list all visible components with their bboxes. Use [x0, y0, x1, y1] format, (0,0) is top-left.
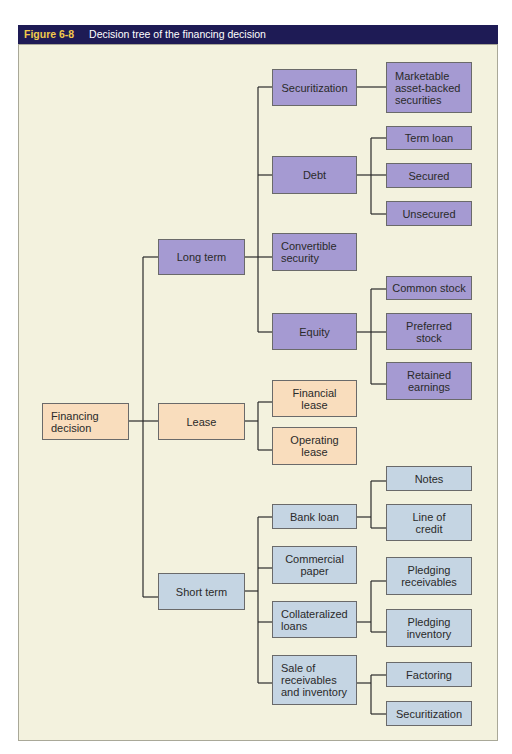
- node-preferred-stock: Preferred stock: [386, 313, 472, 350]
- node-common-stock: Common stock: [386, 276, 472, 300]
- node-unsecured: Unsecured: [386, 201, 472, 226]
- node-debt: Debt: [272, 156, 357, 194]
- node-marketable-abs: Marketable asset-backed securities: [386, 62, 472, 113]
- node-pledging-receivables: Pledging receivables: [386, 557, 472, 595]
- node-commercial-paper: Commercial paper: [272, 546, 357, 584]
- node-securitization: Securitization: [272, 69, 357, 106]
- node-convertible-security: Convertible security: [272, 233, 357, 271]
- node-bank-loan: Bank loan: [272, 504, 357, 529]
- node-collateralized-loans: Collateralized loans: [272, 601, 357, 638]
- node-notes: Notes: [386, 466, 472, 491]
- node-securitization-short: Securitization: [386, 701, 472, 726]
- node-factoring: Factoring: [386, 662, 472, 687]
- node-short-term: Short term: [158, 573, 245, 610]
- node-equity: Equity: [272, 313, 357, 350]
- node-line-of-credit: Line of credit: [386, 504, 472, 541]
- node-financial-lease: Financial lease: [272, 380, 357, 417]
- node-operating-lease: Operating lease: [272, 427, 357, 465]
- node-sale-receivables-inventory: Sale of receivables and inventory: [272, 655, 357, 705]
- node-retained-earnings: Retained earnings: [386, 362, 472, 400]
- node-term-loan: Term loan: [386, 126, 472, 150]
- node-pledging-inventory: Pledging inventory: [386, 609, 472, 647]
- node-long-term: Long term: [158, 239, 245, 275]
- node-lease: Lease: [158, 403, 245, 440]
- node-financing-decision: Financing decision: [42, 403, 129, 440]
- node-secured: Secured: [386, 163, 472, 188]
